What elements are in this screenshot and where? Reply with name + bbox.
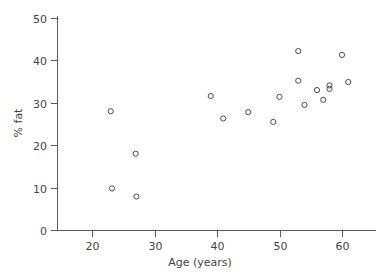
data-point (296, 48, 301, 53)
y-tick-label: 30 (33, 98, 47, 111)
data-point (208, 93, 213, 98)
data-point (271, 119, 276, 124)
y-tick-label: 50 (33, 13, 47, 26)
y-tick-label: 20 (33, 140, 47, 153)
y-axis-ticks (51, 19, 57, 231)
data-point (302, 102, 307, 107)
x-tick-label: 50 (274, 240, 288, 253)
data-point (346, 79, 351, 84)
data-point (327, 86, 332, 91)
x-axis-tick-labels: 2030405060 (86, 240, 350, 253)
data-point (314, 87, 319, 92)
data-point (339, 52, 344, 57)
data-point (246, 110, 251, 115)
x-axis-ticks (93, 230, 343, 237)
data-point (221, 116, 226, 121)
plot-canvas: 01020304050 2030405060 Age (years) % fat (0, 0, 386, 275)
data-point (108, 109, 113, 114)
y-axis-title: % fat (12, 108, 25, 138)
data-point-series (108, 48, 351, 199)
data-point (321, 97, 326, 102)
data-point (296, 78, 301, 83)
x-tick-label: 20 (86, 240, 100, 253)
data-point (277, 94, 282, 99)
axes (57, 16, 376, 231)
data-point (133, 151, 138, 156)
scatter-plot-figure: 01020304050 2030405060 Age (years) % fat (0, 0, 386, 275)
data-point (109, 186, 114, 191)
y-tick-label: 0 (40, 225, 47, 238)
y-tick-label: 10 (33, 183, 47, 196)
y-tick-label: 40 (33, 55, 47, 68)
x-axis-title: Age (years) (168, 256, 232, 269)
x-tick-label: 30 (149, 240, 163, 253)
x-tick-label: 40 (211, 240, 225, 253)
data-point (134, 194, 139, 199)
y-axis-tick-labels: 01020304050 (33, 13, 47, 238)
x-tick-label: 60 (336, 240, 350, 253)
